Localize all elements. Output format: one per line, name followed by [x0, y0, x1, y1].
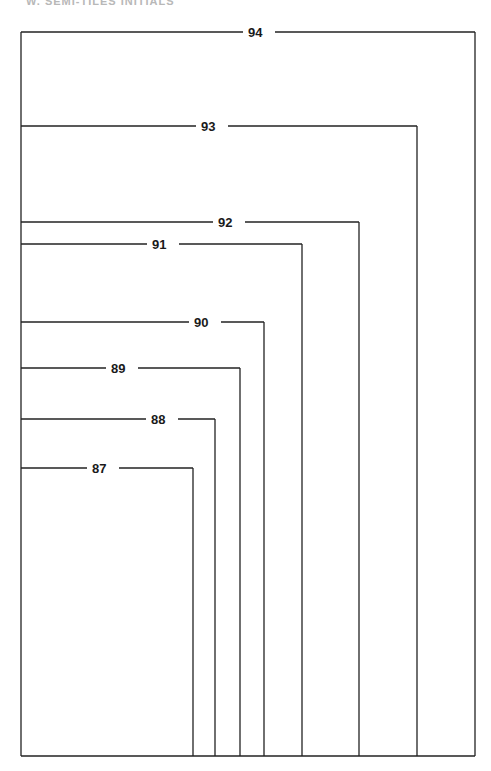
bracket-label: 90	[194, 315, 208, 330]
bracket-label: 94	[248, 25, 263, 40]
bracket-label: 92	[218, 215, 232, 230]
bracket-label: 87	[92, 461, 106, 476]
bracket-label: 89	[111, 361, 125, 376]
bracket-label: 93	[201, 119, 215, 134]
bracket-label: 91	[152, 237, 166, 252]
nested-bracket-diagram: 9493929190898887	[0, 0, 491, 771]
bracket-label: 88	[151, 412, 165, 427]
